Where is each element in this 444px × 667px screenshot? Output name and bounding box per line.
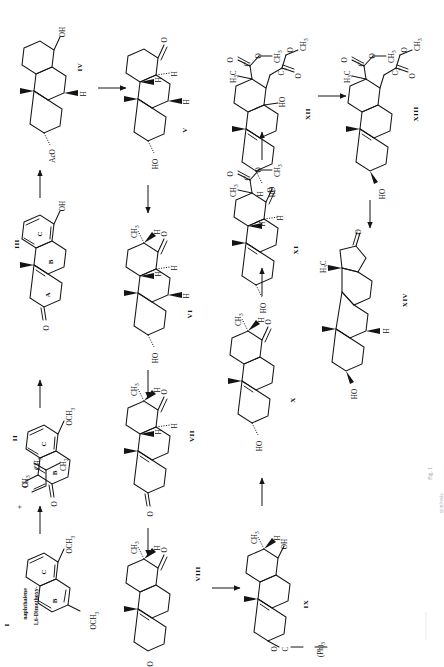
structure-VII bbox=[124, 389, 170, 506]
atom-label-ch2-XII: C2 bbox=[278, 68, 287, 75]
atom-label-ch3-XI-b: CH3 bbox=[230, 184, 239, 197]
atom-label-ch3-XI-a: CH3 bbox=[274, 164, 283, 177]
structure-VIII bbox=[124, 547, 170, 651]
compound-roman-IX: IX bbox=[302, 600, 310, 609]
compound-roman-I: I bbox=[3, 623, 11, 626]
atom-label-h-VI-c: H bbox=[171, 265, 179, 270]
atom-label-ho-XII-b: HO bbox=[269, 187, 277, 197]
compound-roman-X: X bbox=[289, 397, 297, 403]
structure-XIV bbox=[322, 232, 380, 384]
atom-label-ch3-XIII-b: CH3 bbox=[414, 38, 423, 51]
atom-label-c-XI: C bbox=[244, 176, 252, 181]
atom-label-h-V-a: H bbox=[155, 77, 163, 82]
atom-label-ch2-mvk: CH2 bbox=[60, 458, 69, 471]
atom-label-ch3-X: CH3 bbox=[235, 313, 244, 326]
atom-label-ch3-VIII: CH3 bbox=[131, 541, 140, 554]
atom-label-o-VI: O bbox=[161, 231, 169, 236]
figure-caption-line2: synthesis bbox=[438, 493, 444, 513]
compound-roman-VII: VII bbox=[188, 430, 196, 442]
structure-V bbox=[124, 45, 182, 153]
structure-VI bbox=[124, 231, 182, 347]
atom-label-h-XI-a: H bbox=[257, 191, 265, 196]
structure-IV bbox=[20, 37, 78, 145]
atom-label-ph3-IX: (Ph)3 bbox=[317, 642, 326, 657]
atom-label-h-VI-b: H bbox=[155, 271, 163, 276]
atom-label-o-VII: O bbox=[161, 389, 169, 394]
atom-label-oh-IV: OH bbox=[59, 27, 67, 37]
atom-label-o-VII-b: O bbox=[147, 511, 155, 516]
atom-label-o-XIII-d: O bbox=[401, 47, 409, 52]
atom-label-h-VI-d: H bbox=[183, 293, 191, 298]
atom-label-o-XIII-b: O bbox=[369, 53, 377, 58]
atom-label-h-VII-b: H bbox=[155, 429, 163, 434]
atom-label-ch3-XIII-a: CH3 bbox=[388, 50, 397, 63]
atom-label-ho-XI: HO bbox=[260, 303, 268, 313]
atom-label-o-II: O bbox=[51, 501, 59, 506]
atom-label-ho-XII-a: HO bbox=[279, 97, 287, 107]
ring-letter-B-I: B bbox=[51, 599, 59, 604]
atom-label-o-XIII-a: O bbox=[341, 57, 349, 62]
atom-label-o-IX: O bbox=[271, 646, 279, 651]
atom-label-ch2-XIII: C2 bbox=[392, 68, 401, 75]
atom-label-h-XI-b: H bbox=[259, 221, 267, 226]
compound-roman-XIV: XIV bbox=[401, 293, 409, 307]
compound-name-I-line2: naphthalene bbox=[22, 588, 28, 620]
structure-X bbox=[228, 319, 274, 435]
atom-label-ho-XIV: HO bbox=[351, 389, 359, 399]
atom-label-oh-IX: OH bbox=[281, 539, 289, 549]
atom-label-o-VIII-b: O bbox=[147, 661, 155, 666]
atom-label-c-XIII-a: C bbox=[358, 62, 366, 67]
atom-label-h-V-b: H bbox=[171, 71, 179, 76]
atom-label-ch3-XII-a: CH3 bbox=[274, 50, 283, 63]
atom-label-ho-XIII: HO bbox=[379, 189, 387, 199]
atom-label-o-VIII-a: O bbox=[161, 547, 169, 552]
ring-letter-C-III: C bbox=[36, 231, 44, 236]
compound-roman-IV: IV bbox=[76, 63, 84, 72]
atom-label-o-V: O bbox=[161, 37, 169, 42]
ring-letter-B-II: B bbox=[51, 471, 59, 476]
atom-label-h-IV: H bbox=[80, 91, 88, 96]
atom-label-h-VII-c: H bbox=[171, 423, 179, 428]
atom-label-och3-II: OCH3 bbox=[66, 408, 75, 426]
ring-letter-C-II: C bbox=[40, 441, 48, 446]
compound-roman-V: V bbox=[181, 127, 189, 133]
atom-label-o-XII-a: O bbox=[227, 57, 235, 62]
atom-label-h3c-XII: H3C bbox=[230, 70, 239, 83]
atom-label-ch3-mvk: CH3 bbox=[34, 457, 43, 470]
atom-label-c-XII-a: C bbox=[244, 62, 252, 67]
compound-name-I-line1: 1,6-Dimethoxy- bbox=[33, 586, 39, 626]
atom-label-ch3-VI: CH3 bbox=[131, 225, 140, 238]
atom-label-ch3-XII-b: CH3 bbox=[300, 38, 309, 51]
atom-label-och3-I-b: OCH3 bbox=[90, 612, 99, 630]
ring-letter-B-III: B bbox=[47, 260, 55, 265]
atom-label-c-IX: C bbox=[282, 647, 290, 652]
plus-sign-reagent: + bbox=[16, 505, 24, 509]
compound-roman-XI: XI bbox=[292, 246, 300, 255]
atom-label-o-XII-c: O bbox=[295, 73, 303, 78]
atom-label-ho-V: HO bbox=[152, 159, 160, 169]
structure-XII bbox=[232, 50, 298, 183]
atom-label-ch3-II: CH3 bbox=[22, 475, 31, 488]
atom-label-o-XI-a: O bbox=[227, 171, 235, 176]
atom-label-och3-I-a: OCH3 bbox=[66, 536, 75, 554]
atom-label-o-XIII-c: O bbox=[409, 73, 417, 78]
atom-label-o-III: O bbox=[43, 325, 51, 330]
atom-label-o-XII-d: O bbox=[287, 47, 295, 52]
structure-XIII bbox=[346, 50, 412, 184]
compound-roman-XIII: XIII bbox=[412, 106, 420, 121]
atom-label-h-XIV: H bbox=[383, 328, 391, 333]
atom-label-h3c-XIII: H3C bbox=[344, 70, 353, 83]
atom-label-ch3-IX: CH3 bbox=[251, 531, 260, 544]
compound-roman-VIII: VIII bbox=[194, 566, 202, 581]
atom-label-h3c-XIV: H3C bbox=[320, 260, 329, 273]
figure-caption-line1: Fig. 1 bbox=[427, 467, 434, 480]
compound-roman-III: III bbox=[13, 239, 21, 249]
atom-label-h-XI-c: H bbox=[277, 215, 285, 220]
atom-label-ho-VI: HO bbox=[152, 353, 160, 363]
atom-label-h-V-c: H bbox=[183, 99, 191, 104]
structure-III bbox=[20, 211, 66, 320]
atom-label-o-X: O bbox=[265, 319, 273, 324]
atom-label-o-XIV: O bbox=[355, 229, 363, 234]
atom-label-o-XI-b: O bbox=[255, 167, 263, 172]
